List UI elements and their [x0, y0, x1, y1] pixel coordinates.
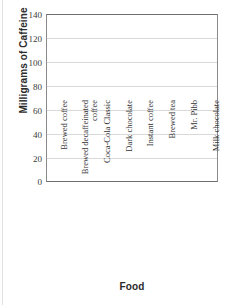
- y-tick-label: 120: [16, 35, 42, 44]
- x-tick-label: Brewed tea: [168, 100, 182, 184]
- x-axis-title: Food: [46, 281, 218, 292]
- y-tick-label: 80: [16, 83, 42, 92]
- y-tick-label: 0: [16, 178, 42, 187]
- y-tick-label: 20: [16, 155, 42, 164]
- x-axis-tick-labels: Brewed coffee Brewed decaffeinated coffe…: [46, 184, 218, 268]
- scan-edge-artifact: [2, 0, 3, 305]
- gridline: [47, 62, 217, 63]
- gridline: [47, 86, 217, 87]
- chart-figure: Milligrams of Caffeine 140 120 100 80 60…: [0, 0, 238, 305]
- x-tick-label: Instant coffee: [146, 100, 160, 184]
- x-tick-label: Milk chocolate: [212, 100, 226, 184]
- x-tick-label: Dark chocolate: [125, 100, 139, 184]
- x-tick-label: Brewed coffee: [60, 100, 74, 184]
- y-tick-label: 100: [16, 59, 42, 68]
- y-tick-label: 40: [16, 131, 42, 140]
- x-tick-label: Coca-Cola Classic: [103, 100, 117, 184]
- y-tick-label: 140: [16, 11, 42, 20]
- gridline: [47, 38, 217, 39]
- x-tick-label: Mr. Pibb: [190, 100, 204, 184]
- x-tick-label: Brewed decaffeinated coffee: [81, 100, 95, 184]
- y-tick-label: 60: [16, 107, 42, 116]
